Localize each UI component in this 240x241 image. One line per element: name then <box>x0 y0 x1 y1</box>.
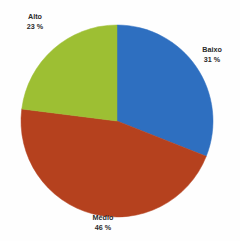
slice-label-baixo-value: 31 % <box>190 55 234 65</box>
pie-chart-screenshot: Alto 23 % Baixo 31 % Médio 46 % <box>0 0 240 241</box>
pie-svg <box>0 0 240 241</box>
pie-slice-alto <box>22 25 117 121</box>
slice-label-alto-name: Alto <box>14 12 56 22</box>
slice-label-baixo-name: Baixo <box>190 45 234 55</box>
pie-chart-graphic <box>0 0 240 241</box>
slice-label-medio: Médio 46 % <box>78 213 128 234</box>
slice-label-baixo: Baixo 31 % <box>190 45 234 66</box>
slice-label-alto-value: 23 % <box>14 22 56 32</box>
slice-label-medio-value: 46 % <box>78 223 128 233</box>
slice-label-alto: Alto 23 % <box>14 12 56 33</box>
pie-slices-group <box>21 25 213 217</box>
slice-label-medio-name: Médio <box>78 213 128 223</box>
